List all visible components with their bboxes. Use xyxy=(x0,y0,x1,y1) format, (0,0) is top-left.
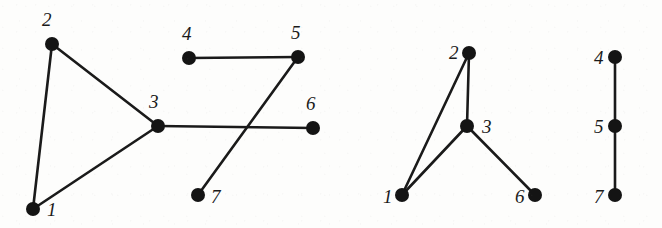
graph-node xyxy=(45,37,59,51)
graph-node xyxy=(306,121,320,135)
graph-edges-original-graph xyxy=(33,44,313,209)
graph-edge xyxy=(402,53,469,195)
node-label: 1 xyxy=(383,187,393,206)
node-label: 2 xyxy=(449,43,459,62)
node-label: 4 xyxy=(594,48,604,67)
node-label: 4 xyxy=(182,24,192,43)
graph-node xyxy=(395,188,409,202)
graph-node xyxy=(26,202,40,216)
graph-edge xyxy=(467,53,469,126)
node-label: 1 xyxy=(47,200,57,219)
graph-node xyxy=(608,119,622,133)
graph-node xyxy=(291,50,305,64)
graph-edge xyxy=(33,44,52,209)
node-label: 6 xyxy=(515,187,525,206)
graph-edge xyxy=(189,57,298,58)
node-label: 5 xyxy=(594,117,604,136)
node-label: 2 xyxy=(42,10,52,29)
graph-node xyxy=(528,188,542,202)
graph-edge xyxy=(33,126,158,209)
node-label: 7 xyxy=(211,187,221,206)
node-label: 5 xyxy=(291,23,301,42)
node-label: 6 xyxy=(306,94,316,113)
graph-node xyxy=(191,188,205,202)
graph-node xyxy=(608,188,622,202)
graph-drawing-canvas xyxy=(0,0,662,228)
edges-layer xyxy=(33,44,615,209)
graph-node xyxy=(460,119,474,133)
graph-edge xyxy=(158,126,313,128)
node-label: 7 xyxy=(594,187,604,206)
graph-edge xyxy=(402,126,467,195)
graph-node xyxy=(462,46,476,60)
node-label: 3 xyxy=(482,117,492,136)
nodes-layer xyxy=(26,37,622,216)
graph-node xyxy=(151,119,165,133)
graph-figure: 12345671236457 xyxy=(0,0,662,228)
graph-edge xyxy=(467,126,535,195)
graph-node xyxy=(608,50,622,64)
graph-node xyxy=(182,51,196,65)
node-label: 3 xyxy=(149,92,159,111)
graph-edge xyxy=(52,44,158,126)
